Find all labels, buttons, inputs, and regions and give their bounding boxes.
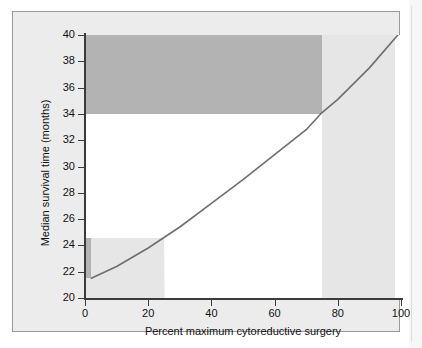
y-tick-label: 28 [53,187,75,198]
y-tick-label: 30 [53,161,75,172]
survival-curve [85,35,401,298]
y-tick [78,61,84,62]
y-axis-line [84,33,86,300]
y-tick [78,140,84,141]
y-tick-label: 20 [53,292,75,303]
x-tick [275,300,276,306]
figure-frame: 2022242628303234363840 020406080100 Perc… [12,11,400,332]
x-axis-title: Percent maximum cytoreductive surgery [85,325,401,337]
y-axis-title: Median survival time (months) [39,73,51,273]
plot-area [85,35,401,298]
y-tick-label: 32 [53,134,75,145]
y-tick-label: 36 [53,82,75,93]
x-tick [211,300,212,306]
x-tick-label: 20 [128,308,168,319]
y-tick [78,35,84,36]
y-tick-label: 24 [53,239,75,250]
x-axis-line [84,298,403,300]
y-tick-label: 22 [53,266,75,277]
x-tick-label: 100 [381,308,421,319]
y-tick [78,298,84,299]
x-tick [85,300,86,306]
y-tick-label: 26 [53,213,75,224]
x-tick [148,300,149,306]
x-tick-label: 80 [318,308,358,319]
x-tick-label: 0 [65,308,105,319]
y-tick [78,193,84,194]
y-tick [78,219,84,220]
x-tick [338,300,339,306]
x-tick-label: 60 [255,308,295,319]
y-tick [78,88,84,89]
x-tick-label: 40 [191,308,231,319]
y-tick-label: 40 [53,29,75,40]
y-tick [78,272,84,273]
y-tick-label: 34 [53,108,75,119]
y-tick [78,167,84,168]
y-tick [78,114,84,115]
y-tick-label: 38 [53,55,75,66]
page-edge-rule [411,6,412,342]
x-tick [401,300,402,306]
y-tick [78,245,84,246]
